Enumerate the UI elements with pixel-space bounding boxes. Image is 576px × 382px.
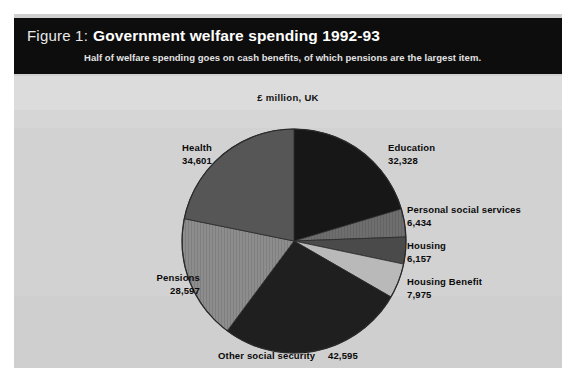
pie-label-health: Health 34,601: [142, 142, 212, 167]
figure-subtitle: Half of welfare spending goes on cash be…: [84, 52, 481, 63]
pie-label-personal-social-services-name: Personal social services: [407, 204, 521, 215]
pie-label-pensions-value: 28,597: [124, 285, 200, 298]
pie-label-pensions: Pensions 28,597: [124, 272, 200, 297]
chart-panel: £ million, UK Education 32,328Personal s…: [14, 76, 562, 368]
pie-label-health-name: Health: [182, 142, 212, 153]
pie-label-other-social-security-value: 42,595: [328, 350, 358, 361]
pie-label-pensions-name: Pensions: [157, 272, 200, 283]
figure-header-bar: Figure 1:Government welfare spending 199…: [14, 18, 562, 74]
page-title: Government welfare spending 1992-93: [93, 27, 380, 44]
pie-label-other-social-security: Other social security 42,595: [14, 350, 562, 363]
figure-number: Figure 1:: [27, 27, 88, 44]
pie-label-housing-benefit-name: Housing Benefit: [407, 276, 482, 287]
pie-label-housing-name: Housing: [407, 240, 446, 251]
pie-label-education-value: 32,328: [388, 155, 435, 168]
pie-label-personal-social-services-value: 6,434: [407, 217, 521, 230]
pie-label-education-name: Education: [388, 142, 435, 153]
pie-label-housing-benefit: Housing Benefit 7,975: [407, 276, 482, 301]
figure-title-row: Figure 1:Government welfare spending 199…: [27, 27, 380, 45]
pie-label-housing: Housing 6,157: [407, 240, 446, 265]
pie-label-other-social-security-name: Other social security: [218, 350, 315, 361]
pie-label-housing-value: 6,157: [407, 253, 446, 266]
pie-label-personal-social-services: Personal social services 6,434: [407, 204, 521, 229]
pie-label-health-value: 34,601: [142, 155, 212, 168]
pie-label-housing-benefit-value: 7,975: [407, 289, 482, 302]
pie-label-education: Education 32,328: [388, 142, 435, 167]
figure-container: Figure 1:Government welfare spending 199…: [14, 14, 562, 368]
pie-slice-group: Education 32,328Personal social services…: [182, 129, 406, 353]
